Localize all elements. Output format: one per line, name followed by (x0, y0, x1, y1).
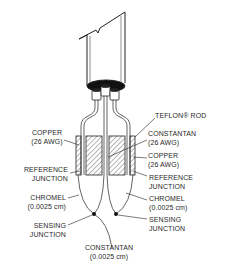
label-chromel-left-line2: (0.0025 cm) (14, 203, 66, 212)
teflon-blocks (76, 136, 135, 175)
label-sensing-junction-left: SENSING JUNCTION (14, 222, 66, 239)
label-constantan-right-line2: (26 AWG) (148, 139, 196, 148)
label-reference-junction-left: REFERENCE JUNCTION (10, 166, 68, 183)
label-sensing-right-line1: SENSING (149, 216, 185, 225)
label-chromel-left-line1: CHROMEL (14, 194, 66, 203)
label-ref-right-line2: JUNCTION (149, 183, 193, 192)
label-copper-left-line1: COPPER (26, 129, 68, 138)
label-sensing-left-line1: SENSING (14, 222, 66, 231)
label-chromel-right-line1: CHROMEL (149, 195, 187, 204)
label-sensing-junction-right: SENSING JUNCTION (149, 216, 185, 233)
teflon-rod-tube (79, 12, 125, 92)
label-chromel-right-line2: (0.0025 cm) (149, 204, 187, 213)
label-chromel-right: CHROMEL (0.0025 cm) (149, 195, 187, 212)
label-copper-left: COPPER (26 AWG) (26, 129, 68, 146)
label-reference-junction-right: REFERENCE JUNCTION (149, 174, 193, 191)
label-constantan-right-line1: CONSTANTAN (148, 130, 196, 139)
label-ref-right-line1: REFERENCE (149, 174, 193, 183)
label-constantan-bottom-line2: (0.0025 cm) (78, 253, 140, 262)
label-copper-right-line1: COPPER (148, 152, 179, 161)
label-constantan-right: CONSTANTAN (26 AWG) (148, 130, 196, 147)
label-chromel-left: CHROMEL (0.0025 cm) (14, 194, 66, 211)
label-ref-left-line2: JUNCTION (10, 175, 68, 184)
label-constantan-bottom: CONSTANTAN (0.0025 cm) (78, 244, 140, 261)
sensing-wires (78, 175, 133, 248)
label-copper-left-line2: (26 AWG) (26, 138, 68, 147)
label-copper-right: COPPER (26 AWG) (148, 152, 179, 169)
label-teflon-rod: TEFLON® ROD (155, 112, 206, 121)
label-sensing-left-line2: JUNCTION (14, 231, 66, 240)
label-copper-right-line2: (26 AWG) (148, 161, 179, 170)
label-sensing-right-line2: JUNCTION (149, 225, 185, 234)
label-ref-left-line1: REFERENCE (10, 166, 68, 175)
label-constantan-bottom-line1: CONSTANTAN (78, 244, 140, 253)
